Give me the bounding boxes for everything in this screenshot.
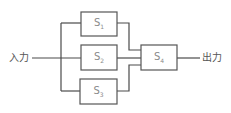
block-s4-sub: 4	[160, 57, 164, 64]
block-s1-label: S1	[81, 17, 117, 33]
block-s2-sub: 2	[100, 57, 104, 64]
block-s4-label: S4	[141, 51, 177, 67]
input-label: 入力	[9, 52, 29, 64]
output-label: 出力	[202, 52, 222, 64]
block-s1-sub: 1	[100, 23, 104, 30]
s1-to-s4	[117, 23, 141, 50]
block-s3-sub: 3	[100, 91, 104, 98]
block-s3-label: S3	[80, 85, 117, 101]
block-s2-label: S2	[81, 51, 117, 67]
s3-to-s4	[117, 65, 141, 91]
